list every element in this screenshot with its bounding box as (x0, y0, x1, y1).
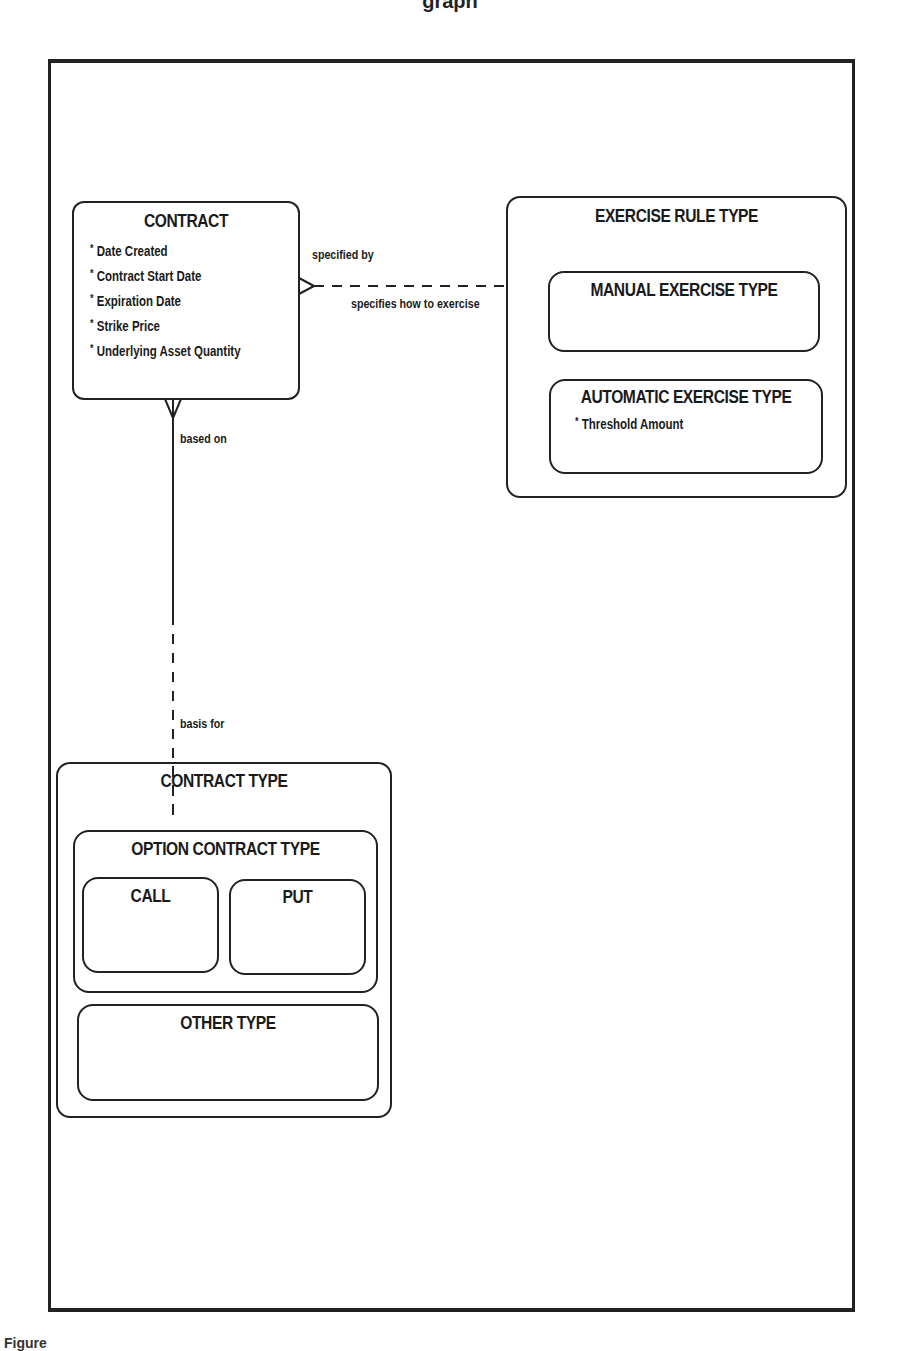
attribute-list: *Date Created *Contract Start Date *Expi… (90, 239, 298, 364)
relationship-label-specified-by: specified by (312, 247, 374, 262)
attribute-strike-price: *Strike Price (90, 314, 261, 339)
entity-call[interactable]: CALL (82, 877, 219, 973)
relationship-label-specifies-how-to-exercise: specifies how to exercise (351, 296, 480, 311)
figure-caption-fragment: Figure (4, 1335, 47, 1351)
entity-title: OTHER TYPE (106, 1008, 350, 1038)
mandatory-marker: * (90, 267, 94, 279)
mandatory-marker: * (575, 415, 579, 427)
mandatory-marker: * (90, 292, 94, 304)
attribute-list: *Threshold Amount (575, 412, 821, 437)
entity-title: CALL (96, 881, 205, 911)
entity-put[interactable]: PUT (229, 879, 366, 975)
entity-title: MANUAL EXERCISE TYPE (574, 275, 794, 305)
entity-other-type[interactable]: OTHER TYPE (77, 1004, 379, 1101)
mandatory-marker: * (90, 242, 94, 254)
entity-manual-exercise-type[interactable]: MANUAL EXERCISE TYPE (548, 271, 820, 352)
relationship-label-basis-for: basis for (180, 716, 224, 731)
entity-title: OPTION CONTRACT TYPE (102, 834, 349, 864)
attribute-threshold-amount: *Threshold Amount (575, 412, 777, 437)
entity-contract[interactable]: CONTRACT *Date Created *Contract Start D… (72, 201, 300, 400)
entity-title: CONTRACT (94, 206, 278, 236)
attribute-underlying-asset-quantity: *Underlying Asset Quantity (90, 339, 261, 364)
entity-title: PUT (243, 882, 352, 912)
entity-automatic-exercise-type[interactable]: AUTOMATIC EXERCISE TYPE *Threshold Amoun… (549, 379, 823, 474)
attribute-date-created: *Date Created (90, 239, 261, 264)
attribute-expiration-date: *Expiration Date (90, 289, 261, 314)
entity-title: EXERCISE RULE TYPE (538, 201, 814, 231)
entity-title: CONTRACT TYPE (88, 766, 360, 796)
attribute-contract-start-date: *Contract Start Date (90, 264, 261, 289)
relationship-label-based-on: based on (180, 431, 227, 446)
mandatory-marker: * (90, 317, 94, 329)
entity-title: AUTOMATIC EXERCISE TYPE (575, 382, 796, 412)
page-header-fragment: graph (270, 0, 630, 13)
mandatory-marker: * (90, 342, 94, 354)
